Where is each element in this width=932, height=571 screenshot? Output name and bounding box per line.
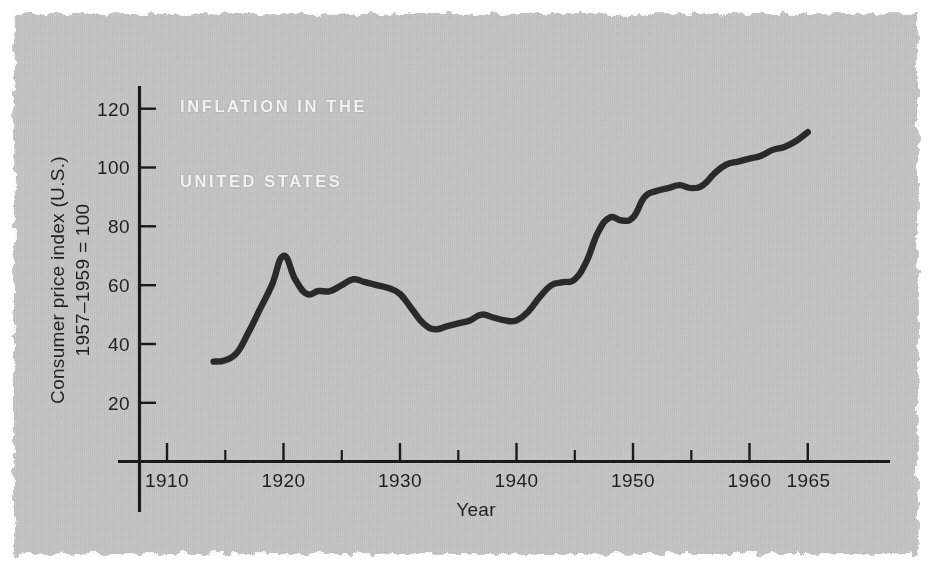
x-tick-label: 1910: [145, 470, 189, 491]
y-tick-label: 40: [108, 334, 130, 355]
x-tick-label: 1940: [495, 470, 539, 491]
y-tick-label: 120: [97, 99, 130, 120]
plot-area: 120 100 80 60 40 20 1910 1: [0, 0, 932, 571]
x-tick-label: 1920: [262, 470, 306, 491]
chart-title-line1: INFLATION IN THE: [180, 94, 367, 119]
y-axis-tick-labels: 120 100 80 60 40 20: [97, 99, 130, 414]
chart-title-line2: UNITED STATES: [180, 169, 367, 194]
x-tick-label: 1930: [378, 470, 422, 491]
figure-root: 120 100 80 60 40 20 1910 1: [0, 0, 932, 571]
chart-title: INFLATION IN THE UNITED STATES: [180, 44, 367, 244]
x-tick-label: 1960: [728, 470, 772, 491]
y-tick-label: 60: [108, 275, 130, 296]
x-axis-ticks-major: [167, 443, 808, 462]
y-axis-title-line1: Consumer price index (U.S.): [47, 156, 68, 404]
y-axis-title: Consumer price index (U.S.) 1957–1959 = …: [47, 156, 93, 404]
y-axis-title-line2: 1957–1959 = 100: [72, 204, 93, 357]
x-tick-label: 1965: [787, 470, 831, 491]
x-axis-tick-labels: 1910 1920 1930 1940 1950 1960 1965: [145, 470, 830, 491]
y-tick-label: 20: [108, 393, 130, 414]
y-tick-label: 100: [97, 157, 130, 178]
x-axis-ticks-minor: [225, 450, 691, 462]
y-tick-label: 80: [108, 216, 130, 237]
x-tick-label: 1950: [611, 470, 655, 491]
y-axis-ticks: [140, 109, 157, 403]
x-axis-title: Year: [456, 499, 496, 520]
